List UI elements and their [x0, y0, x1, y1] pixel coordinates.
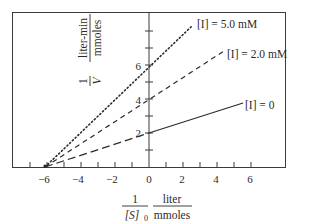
x-tick-label: −4 — [72, 173, 84, 185]
x-tick-label: −2 — [106, 173, 118, 185]
y-label-unit-numerator: liter-min — [77, 18, 89, 58]
y-label-denominator: V — [91, 76, 103, 85]
x-tick-label: 2 — [179, 173, 185, 185]
y-axis-label: 1 V liter-min mmoles — [77, 14, 103, 86]
x-label-unit-denominator: mmoles — [154, 209, 191, 221]
intercept-point — [43, 164, 46, 167]
x-label-subscript: 0 — [144, 214, 148, 223]
series-label-0: [I] = 0 — [245, 99, 275, 111]
x-label-denominator: [S] — [125, 209, 140, 221]
series-label-5mM: [I] = 5.0 mM — [197, 18, 257, 30]
x-label-numerator: 1 — [132, 193, 138, 205]
y-label-unit-denominator: mmoles — [91, 19, 103, 56]
x-tick-label: 4 — [213, 173, 219, 185]
x-tick-label: 6 — [247, 173, 253, 185]
y-tick-labels: 2 4 6 — [136, 60, 142, 139]
chart: −6 −4 −2 0 2 4 6 2 4 6 [I] = 5.0 mM [I] … — [0, 0, 312, 224]
x-label-unit-numerator: liter — [163, 193, 182, 205]
series-line-5mM — [45, 25, 193, 167]
y-tick-label: 6 — [136, 60, 142, 72]
x-tick-label: 0 — [146, 173, 152, 185]
x-tick-labels: −6 −4 −2 0 2 4 6 — [38, 173, 253, 185]
y-label-numerator: 1 — [77, 78, 89, 84]
y-tick-label: 4 — [136, 94, 142, 106]
x-tick-label: −6 — [38, 173, 50, 185]
x-axis-label: 1 [S] 0 liter mmoles — [122, 193, 192, 223]
series-label-2mM: [I] = 2.0 mM — [227, 48, 287, 60]
x-ticks — [30, 162, 251, 167]
series-line-2mM — [45, 51, 224, 167]
series-line-0 — [149, 103, 243, 133]
series-line-0-extrapolated — [45, 133, 149, 167]
